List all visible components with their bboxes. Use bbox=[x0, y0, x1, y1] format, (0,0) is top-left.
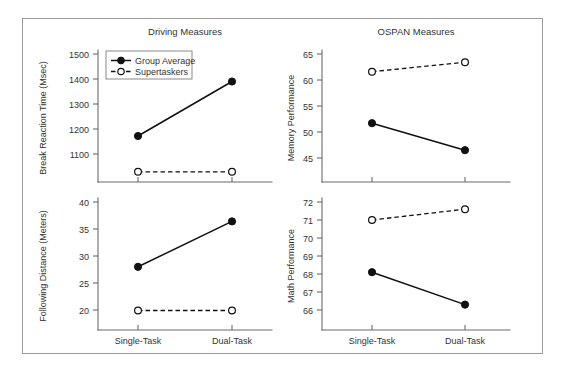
x-ticks-bottom-right bbox=[372, 325, 465, 330]
y-tick-label: 1300 bbox=[69, 100, 89, 110]
figure-root: Driving Measures Break Reaction Time (Ms… bbox=[0, 0, 565, 374]
y-tick-label: 30 bbox=[79, 252, 89, 262]
y-tick-label: 20 bbox=[79, 306, 89, 316]
y-ticks-bottom-right: 72 71 70 69 68 67 66 bbox=[303, 198, 322, 316]
x-tick-label-single-task: Single-Task bbox=[115, 336, 162, 346]
y-tick-label: 66 bbox=[303, 306, 313, 316]
series-supertaskers-bottom-right bbox=[369, 206, 469, 224]
panel-bottom-right: Math Performance 72 71 70 69 68 67 66 bbox=[286, 198, 510, 347]
panel-title-top-right: OSPAN Measures bbox=[378, 26, 455, 37]
series-supertaskers-top-right bbox=[369, 59, 469, 75]
x-tick-labels-bottom-right: Single-Task Dual-Task bbox=[349, 336, 486, 346]
y-tick-label: 67 bbox=[303, 288, 313, 298]
y-ticks-bottom-left: 40 35 30 25 20 bbox=[79, 198, 98, 316]
y-tick-label: 71 bbox=[303, 216, 313, 226]
y-tick-label: 1500 bbox=[69, 50, 89, 60]
legend-marker-open-circle bbox=[118, 68, 124, 74]
series-group-average-top-left bbox=[134, 78, 235, 140]
y-tick-label: 55 bbox=[303, 102, 313, 112]
series-group-average-bottom-left bbox=[134, 218, 235, 271]
y-tick-label: 50 bbox=[303, 128, 313, 138]
y-tick-label: 45 bbox=[303, 154, 313, 164]
multi-panel-line-chart: Driving Measures Break Reaction Time (Ms… bbox=[0, 0, 565, 374]
x-tick-label-dual-task: Dual-Task bbox=[212, 336, 253, 346]
series-supertaskers-top-left bbox=[135, 168, 236, 175]
series-group-average-top-right bbox=[368, 120, 468, 154]
y-tick-label: 40 bbox=[79, 198, 89, 208]
x-ticks-top-left bbox=[138, 177, 232, 182]
y-tick-label: 60 bbox=[303, 76, 313, 86]
y-axis-label-top-right: Memory Performance bbox=[286, 75, 296, 162]
y-tick-label: 1200 bbox=[69, 125, 89, 135]
legend: Group Average Supertaskers bbox=[106, 51, 195, 79]
series-group-average-bottom-right bbox=[368, 269, 468, 309]
y-tick-label: 1100 bbox=[70, 150, 89, 160]
y-tick-label: 35 bbox=[79, 225, 89, 235]
legend-label-supertaskers: Supertaskers bbox=[135, 67, 189, 77]
y-ticks-top-right: 65 60 55 50 45 bbox=[303, 50, 322, 164]
y-tick-label: 69 bbox=[303, 252, 313, 262]
y-axis-label-top-left: Break Reaction Time (Msec) bbox=[38, 61, 48, 175]
y-tick-label: 72 bbox=[303, 198, 313, 208]
x-ticks-top-right bbox=[372, 177, 465, 182]
y-tick-label: 68 bbox=[303, 270, 313, 280]
x-ticks-bottom-left bbox=[138, 325, 232, 330]
y-tick-label: 70 bbox=[303, 234, 313, 244]
legend-marker-filled-circle bbox=[118, 57, 125, 64]
y-tick-label: 25 bbox=[79, 279, 89, 289]
y-ticks-top-left: 1500 1400 1300 1200 1100 bbox=[69, 50, 98, 160]
panel-top-right: OSPAN Measures Memory Performance 65 60 … bbox=[286, 26, 510, 182]
panel-title-top-left: Driving Measures bbox=[148, 26, 222, 37]
legend-label-group-average: Group Average bbox=[135, 56, 195, 66]
y-axis-label-bottom-left: Following Distance (Meters) bbox=[38, 210, 48, 322]
x-tick-label-dual-task: Dual-Task bbox=[445, 336, 486, 346]
y-tick-label: 65 bbox=[303, 50, 313, 60]
y-tick-label: 1400 bbox=[69, 75, 89, 85]
panel-top-left: Driving Measures Break Reaction Time (Ms… bbox=[38, 26, 272, 182]
x-tick-labels-bottom-left: Single-Task Dual-Task bbox=[115, 336, 253, 346]
panel-bottom-left: Following Distance (Meters) 40 35 30 25 … bbox=[38, 198, 272, 347]
series-supertaskers-bottom-left bbox=[135, 307, 236, 314]
x-tick-label-single-task: Single-Task bbox=[349, 336, 396, 346]
y-axis-label-bottom-right: Math Performance bbox=[286, 229, 296, 303]
